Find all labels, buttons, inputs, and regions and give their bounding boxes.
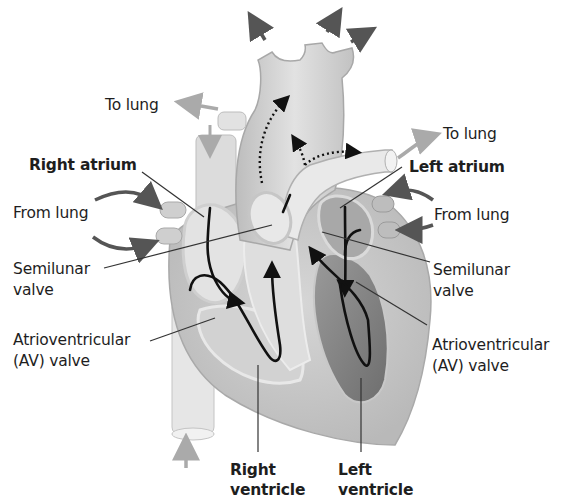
label-right-atrium: Right atrium bbox=[29, 156, 137, 175]
label-left-atrium: Left atrium bbox=[409, 158, 505, 177]
label-semilunar-left-line2: valve bbox=[13, 281, 54, 300]
label-to-lung-right: To lung bbox=[443, 125, 497, 144]
label-av-valve-left-line2: (AV) valve bbox=[13, 352, 90, 371]
label-right-ventricle-line2: ventricle bbox=[230, 481, 305, 500]
label-semilunar-left-line1: Semilunar bbox=[13, 260, 90, 279]
label-to-lung-left: To lung bbox=[105, 96, 159, 115]
aorta-outflow-arrows bbox=[253, 16, 368, 42]
label-left-ventricle-line1: Left bbox=[338, 461, 372, 480]
label-semilunar-right-line1: Semilunar bbox=[433, 261, 510, 280]
pulmonary-veins-left bbox=[156, 202, 186, 244]
label-from-lung-left: From lung bbox=[13, 204, 88, 223]
heart-diagram: To lung To lung Right atrium Left atrium… bbox=[0, 0, 562, 502]
right-atrium-chamber bbox=[183, 205, 246, 303]
label-av-valve-right-line1: Atrioventricular bbox=[432, 336, 549, 355]
label-semilunar-right-line2: valve bbox=[433, 282, 474, 301]
from-lung-arrows-left bbox=[93, 192, 155, 249]
label-right-ventricle-line1: Right bbox=[230, 461, 276, 480]
label-left-ventricle-line2: ventricle bbox=[338, 481, 413, 500]
label-av-valve-left-line1: Atrioventricular bbox=[13, 331, 130, 350]
label-from-lung-right: From lung bbox=[434, 206, 509, 225]
heart-illustration bbox=[0, 0, 562, 502]
label-av-valve-right-line2: (AV) valve bbox=[432, 357, 509, 376]
